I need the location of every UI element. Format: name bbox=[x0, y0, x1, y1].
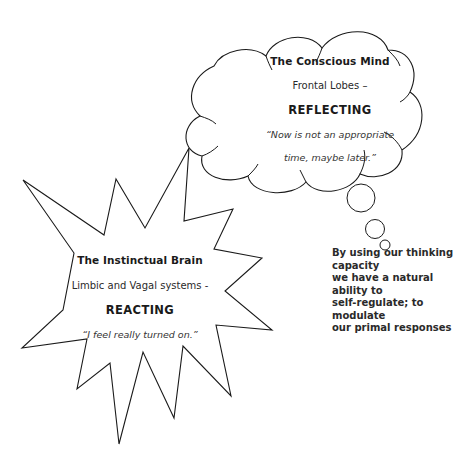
conscious-mind-subtitle: Frontal Lobes – bbox=[230, 80, 430, 91]
caption-line-2: we have a natural ability to bbox=[332, 272, 461, 297]
instinctual-brain-state: REACTING bbox=[40, 303, 240, 317]
conscious-mind-quote-line1: “Now is not an appropriate bbox=[230, 129, 430, 140]
conscious-mind-title: The Conscious Mind bbox=[230, 55, 430, 67]
diagram-shapes bbox=[0, 0, 461, 465]
instinctual-brain-subtitle: Limbic and Vagal systems - bbox=[40, 280, 240, 291]
caption-line-3: self-regulate; to modulate bbox=[332, 297, 461, 322]
conscious-mind-state: REFLECTING bbox=[230, 103, 430, 117]
thought-bubble-large bbox=[347, 184, 375, 212]
caption-line-1: By using our thinking capacity bbox=[332, 247, 461, 272]
instinctual-brain-title: The Instinctual Brain bbox=[40, 254, 240, 266]
instinctual-brain-quote: “I feel really turned on.” bbox=[40, 329, 240, 340]
thought-bubble-medium bbox=[366, 220, 385, 239]
caption-line-4: our primal responses bbox=[332, 322, 461, 335]
conscious-mind-quote-line2: time, maybe later.” bbox=[230, 152, 430, 163]
self-regulation-caption: By using our thinking capacity we have a… bbox=[332, 247, 461, 335]
starburst-shape bbox=[22, 148, 272, 444]
